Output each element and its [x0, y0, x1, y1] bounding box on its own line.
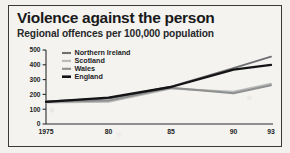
- y-tick-label: 500: [29, 46, 40, 53]
- x-tick-label: 80: [105, 128, 113, 135]
- y-tick-label: 300: [29, 76, 40, 83]
- y-tick-label: 200: [29, 91, 40, 98]
- x-tick-label: 1975: [38, 128, 53, 135]
- y-tick-label: 100: [29, 106, 40, 113]
- y-axis: 0100200300400500: [29, 46, 46, 127]
- x-tick-label: 90: [230, 128, 238, 135]
- chart-legend: Northern IrelandScotlandWalesEngland: [62, 48, 130, 81]
- x-tick-label: 85: [167, 128, 175, 135]
- legend-label-england: England: [75, 72, 103, 81]
- x-axis: 197580859093: [38, 124, 275, 135]
- y-tick-label: 400: [29, 61, 40, 68]
- x-tick-label: 93: [267, 128, 275, 135]
- line-chart-svg: 0100200300400500 197580859093 Northern I…: [0, 0, 290, 153]
- plot-area: 0100200300400500 197580859093 Northern I…: [0, 0, 290, 153]
- chart-figure: Violence against the person Regional off…: [0, 0, 290, 153]
- y-tick-label: 0: [37, 120, 41, 127]
